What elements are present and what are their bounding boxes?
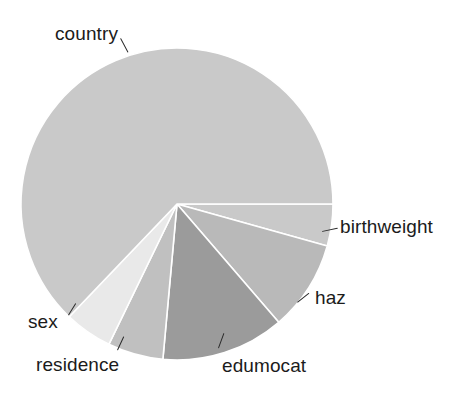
pie-label-edumocat: edumocat (222, 356, 306, 375)
pie-label-haz: haz (315, 288, 346, 307)
pie-label-country: country (55, 24, 118, 43)
pie-label-residence: residence (36, 355, 119, 374)
pie-chart-canvas (0, 0, 454, 393)
pie-chart-figure: country birthweight haz edumocat residen… (0, 0, 454, 393)
pie-label-birthweight: birthweight (340, 217, 433, 236)
pie-label-sex: sex (28, 312, 58, 331)
